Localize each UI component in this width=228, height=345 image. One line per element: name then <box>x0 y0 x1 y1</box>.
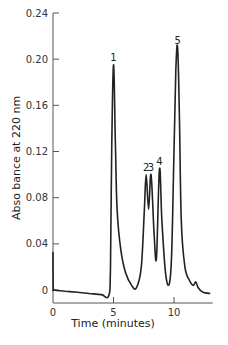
chromatogram-trace <box>53 45 210 298</box>
y-tick-label: 0.12 <box>26 146 48 157</box>
peak-label-5: 5 <box>174 35 180 46</box>
axes <box>53 13 213 303</box>
y-tick-label: 0 <box>42 285 48 296</box>
x-tick-label: 10 <box>168 307 181 318</box>
x-tick-label: 0 <box>50 307 56 318</box>
peak-label-1: 1 <box>110 52 116 63</box>
y-tick-label: 0.24 <box>26 8 48 19</box>
peak-labels: 12345 <box>110 35 181 173</box>
y-tick-label: 0.08 <box>26 192 48 203</box>
y-tick-label: 0.04 <box>26 238 48 249</box>
peak-label-3: 3 <box>148 162 154 173</box>
x-axis-label: Time (minutes) <box>70 317 155 330</box>
peak-label-4: 4 <box>156 156 162 167</box>
y-tick-label: 0.20 <box>26 54 48 65</box>
chromatogram-chart: 00.040.080.120.160.200.240510 12345 Time… <box>0 0 228 345</box>
y-tick-label: 0.16 <box>26 100 48 111</box>
y-axis-label: Abso bance at 220 nm <box>10 96 23 220</box>
